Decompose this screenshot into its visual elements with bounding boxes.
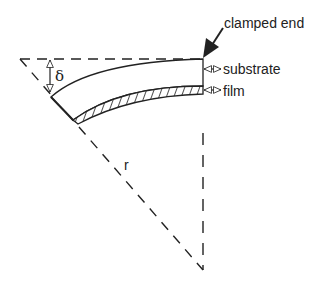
- substrate-label: substrate: [223, 61, 281, 77]
- clamped-end-arrow-shaft: [212, 28, 223, 45]
- film-label: film: [223, 83, 245, 99]
- cantilever-diagram: δ r clamped end substrate film: [0, 0, 330, 286]
- deflection-label: δ: [55, 67, 64, 85]
- clamped-end-arrow-head: [203, 38, 219, 58]
- radius-label: r: [124, 157, 129, 173]
- clamped-end-label: clamped end: [224, 15, 304, 31]
